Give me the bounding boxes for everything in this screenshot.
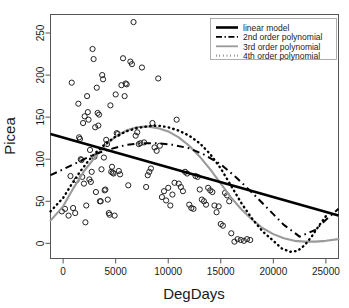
legend-label-4: 4th order polynomial (243, 51, 320, 61)
x-tick-label: 5000 (105, 266, 128, 277)
plot-svg: 0500010000150002000025000 05010015020025… (0, 0, 349, 308)
y-tick-label: 250 (35, 24, 46, 41)
y-tick-label: 200 (35, 66, 46, 83)
x-tick-label: 15000 (207, 266, 235, 277)
y-tick-label: 0 (35, 240, 46, 246)
picea-degdays-scatter-chart: 0500010000150002000025000 05010015020025… (0, 0, 349, 308)
x-tick-label: 25000 (312, 266, 340, 277)
x-tick-label: 0 (60, 266, 66, 277)
y-axis-title: Picea (1, 117, 18, 155)
y-tick-label: 50 (35, 195, 46, 207)
x-axis-title: DegDays (163, 285, 225, 302)
y-tick-label: 150 (35, 108, 46, 125)
y-tick-label: 100 (35, 150, 46, 167)
x-tick-label: 10000 (154, 266, 182, 277)
x-tick-label: 20000 (259, 266, 287, 277)
legend: linear model2nd order polynomial3rd orde… (211, 19, 337, 61)
